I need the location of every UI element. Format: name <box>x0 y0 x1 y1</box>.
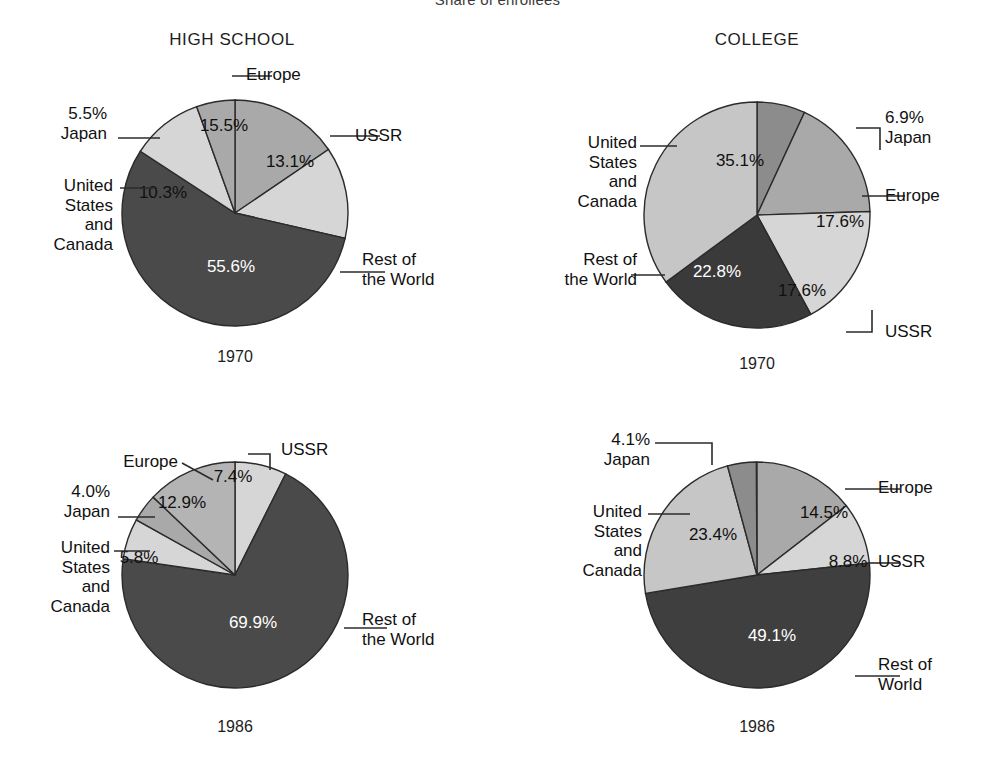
pie-hs-1986: 7.4%12.9%5.8%69.9% <box>114 454 387 688</box>
callout-col-1986-japan: 4.1% Japan <box>470 430 650 469</box>
slice-value-label: 10.3% <box>139 183 187 202</box>
callout-hs-1970-europe: Europe <box>246 65 301 85</box>
callout-col-1970-rest-of-the-world: Rest of the World <box>457 250 637 289</box>
pie-chart-canvas: 15.5%13.1%55.6%10.3%35.1%17.6%17.6%22.8%… <box>0 0 995 766</box>
leader-line-japan <box>655 443 712 465</box>
slice-value-label: 23.4% <box>689 525 737 544</box>
pie-chart-figure: Share of enrollees HIGH SCHOOL COLLEGE 1… <box>0 0 995 766</box>
slice-value-label: 69.9% <box>229 613 277 632</box>
callout-hs-1986-united-states-and-canada: United States and Canada <box>0 538 110 617</box>
callout-col-1986-united-states-and-canada: United States and Canada <box>462 502 642 581</box>
callout-hs-1970-united-states-and-canada: United States and Canada <box>0 176 113 255</box>
callout-hs-1986-ussr: USSR <box>281 440 328 460</box>
callout-col-1970-japan: 6.9% Japan <box>885 108 931 147</box>
year-label-hs-1986: 1986 <box>217 718 253 736</box>
callout-col-1986-ussr: USSR <box>878 552 925 572</box>
slice-value-label: 8.8% <box>829 552 868 571</box>
slice-value-label: 35.1% <box>716 151 764 170</box>
slice-value-label: 22.8% <box>693 262 741 281</box>
callout-hs-1970-ussr: USSR <box>355 126 402 146</box>
callout-hs-1970-rest-of-the-world: Rest of the World <box>362 250 434 289</box>
leader-line-ussr <box>846 310 872 332</box>
pie-col-1986: 14.5%8.8%49.1%23.4% <box>644 443 900 688</box>
pie-col-1970: 35.1%17.6%17.6%22.8% <box>631 102 905 332</box>
callout-hs-1986-rest-of-the-world: Rest of the World <box>362 610 434 649</box>
callout-col-1970-ussr: USSR <box>885 322 932 342</box>
slice-value-label: 17.6% <box>778 281 826 300</box>
slice-value-label: 13.1% <box>266 152 314 171</box>
pie-hs-1970: 15.5%13.1%55.6%10.3% <box>118 76 385 326</box>
callout-hs-1970-japan: 5.5% Japan <box>0 104 107 143</box>
slice-value-label: 15.5% <box>200 116 248 135</box>
callout-col-1986-europe: Europe <box>878 478 933 498</box>
slice-value-label: 17.6% <box>816 212 864 231</box>
leader-line-japan <box>856 128 880 150</box>
callout-hs-1986-japan: 4.0% Japan <box>0 482 110 521</box>
slice-value-label: 55.6% <box>207 257 255 276</box>
slice-value-label: 7.4% <box>214 467 253 486</box>
year-label-col-1986: 1986 <box>739 718 775 736</box>
callout-hs-1986-europe: Europe <box>0 452 178 472</box>
year-label-col-1970: 1970 <box>739 355 775 373</box>
callout-col-1970-europe: Europe <box>885 186 940 206</box>
callout-col-1970-united-states-and-canada: United States and Canada <box>457 133 637 212</box>
slice-value-label: 49.1% <box>748 626 796 645</box>
slice-value-label: 12.9% <box>158 493 206 512</box>
year-label-hs-1970: 1970 <box>217 348 253 366</box>
callout-col-1986-rest-of-world: Rest of World <box>878 655 932 694</box>
slice-value-label: 14.5% <box>800 503 848 522</box>
